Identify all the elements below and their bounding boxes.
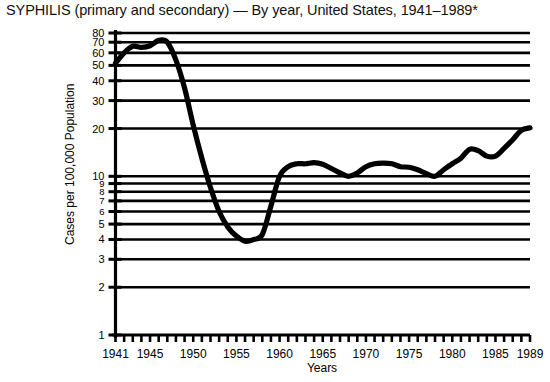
y-tick-label-5: 5 (98, 218, 104, 230)
x-tick-label-1985: 1985 (482, 347, 509, 361)
x-tick-label-1965: 1965 (309, 347, 336, 361)
x-tick-label-1945: 1945 (137, 347, 164, 361)
x-axis-tick-labels: 1941194519501955196019651970197519801985… (102, 347, 544, 361)
y-tick-label-50: 50 (92, 59, 104, 71)
y-tick-label-1: 1 (98, 329, 104, 341)
y-axis-title: Cases per 100,000 Population (63, 84, 77, 245)
y-tick-label-60: 60 (92, 47, 104, 59)
y-tick-label-80: 80 (92, 27, 104, 39)
x-axis-title: Years (307, 361, 337, 375)
x-tick-label-1960: 1960 (266, 347, 293, 361)
x-tick-label-1989: 1989 (517, 347, 544, 361)
syphilis-log-line-chart: 1234567891020304050607080 19411945195019… (0, 0, 550, 382)
y-tick-label-20: 20 (92, 123, 104, 135)
x-tick-label-1980: 1980 (439, 347, 466, 361)
y-axis-tick-labels: 1234567891020304050607080 (92, 27, 104, 341)
y-tick-label-30: 30 (92, 95, 104, 107)
y-tick-label-3: 3 (98, 253, 104, 265)
x-tick-label-1941: 1941 (102, 347, 129, 361)
y-tick-label-2: 2 (98, 281, 104, 293)
x-tick-label-1955: 1955 (223, 347, 250, 361)
y-tick-label-6: 6 (99, 206, 104, 217)
x-tick-label-1970: 1970 (353, 347, 380, 361)
figure-container: SYPHILIS (primary and secondary) — By ye… (0, 0, 550, 382)
x-tick-label-1950: 1950 (180, 347, 207, 361)
y-tick-label-40: 40 (92, 75, 104, 87)
y-tick-label-10: 10 (92, 170, 104, 182)
x-tick-label-1975: 1975 (396, 347, 423, 361)
y-tick-label-4: 4 (98, 233, 104, 245)
